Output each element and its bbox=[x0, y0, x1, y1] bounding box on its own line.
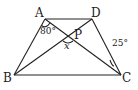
label-b: B bbox=[3, 72, 12, 84]
angle-label-p: x bbox=[64, 41, 70, 51]
diagonal-ac bbox=[45, 19, 121, 75]
label-p: P bbox=[74, 29, 82, 41]
angle-label-a: 80° bbox=[40, 27, 56, 36]
label-c: C bbox=[122, 72, 131, 84]
label-d: D bbox=[91, 7, 101, 19]
label-a: A bbox=[35, 7, 44, 19]
angle-label-c: 25° bbox=[112, 39, 128, 48]
